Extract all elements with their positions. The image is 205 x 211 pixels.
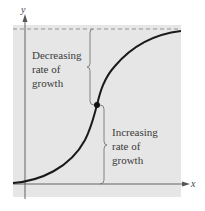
x-axis-label: x [190, 178, 196, 189]
lower-annotation-line-2: rate of [112, 140, 141, 152]
logistic-growth-diagram: y x Decreasing rate of growth Increasing… [0, 0, 205, 211]
lower-annotation-line-3: growth [112, 154, 144, 166]
lower-annotation-line-1: Increasing [112, 126, 158, 138]
x-axis-arrow-icon [182, 182, 190, 187]
upper-annotation-line-2: rate of [32, 63, 61, 75]
y-axis-arrow-icon [23, 14, 28, 22]
upper-annotation-line-1: Decreasing [32, 49, 82, 61]
upper-annotation-line-3: growth [32, 77, 64, 89]
inflection-point [94, 102, 100, 108]
y-axis-label: y [20, 4, 26, 15]
